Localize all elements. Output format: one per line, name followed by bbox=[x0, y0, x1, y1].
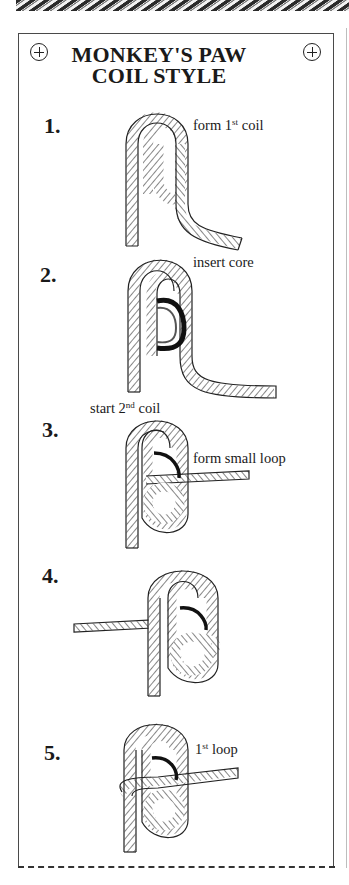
step-5-number: 5. bbox=[44, 740, 61, 766]
cut-line-dashed bbox=[18, 866, 335, 868]
step-2-rope-illustration bbox=[124, 256, 284, 396]
step-1-rope-illustration bbox=[120, 104, 250, 250]
page-edge-rule bbox=[346, 28, 347, 868]
step-4-rope-illustration bbox=[72, 568, 242, 703]
step-3-number: 3. bbox=[42, 417, 59, 443]
step-4-number: 4. bbox=[42, 563, 59, 589]
page-title: MONKEY'S PAW COIL STYLE bbox=[40, 44, 278, 86]
caption-text: coil bbox=[135, 400, 160, 416]
step-1-number: 1. bbox=[44, 113, 61, 139]
caption-text: start 2 bbox=[90, 400, 126, 416]
step-2-number: 2. bbox=[40, 262, 57, 288]
rope-banner bbox=[16, 0, 349, 12]
step-3-top-caption: start 2nd coil bbox=[90, 400, 160, 417]
step-5-rope-illustration bbox=[118, 722, 248, 857]
title-line-2: COIL STYLE bbox=[40, 65, 278, 86]
plus-circle-icon bbox=[303, 43, 321, 61]
step-3-rope-illustration bbox=[124, 418, 264, 553]
caption-sup: nd bbox=[126, 400, 135, 410]
title-line-1: MONKEY'S PAW bbox=[40, 44, 278, 65]
